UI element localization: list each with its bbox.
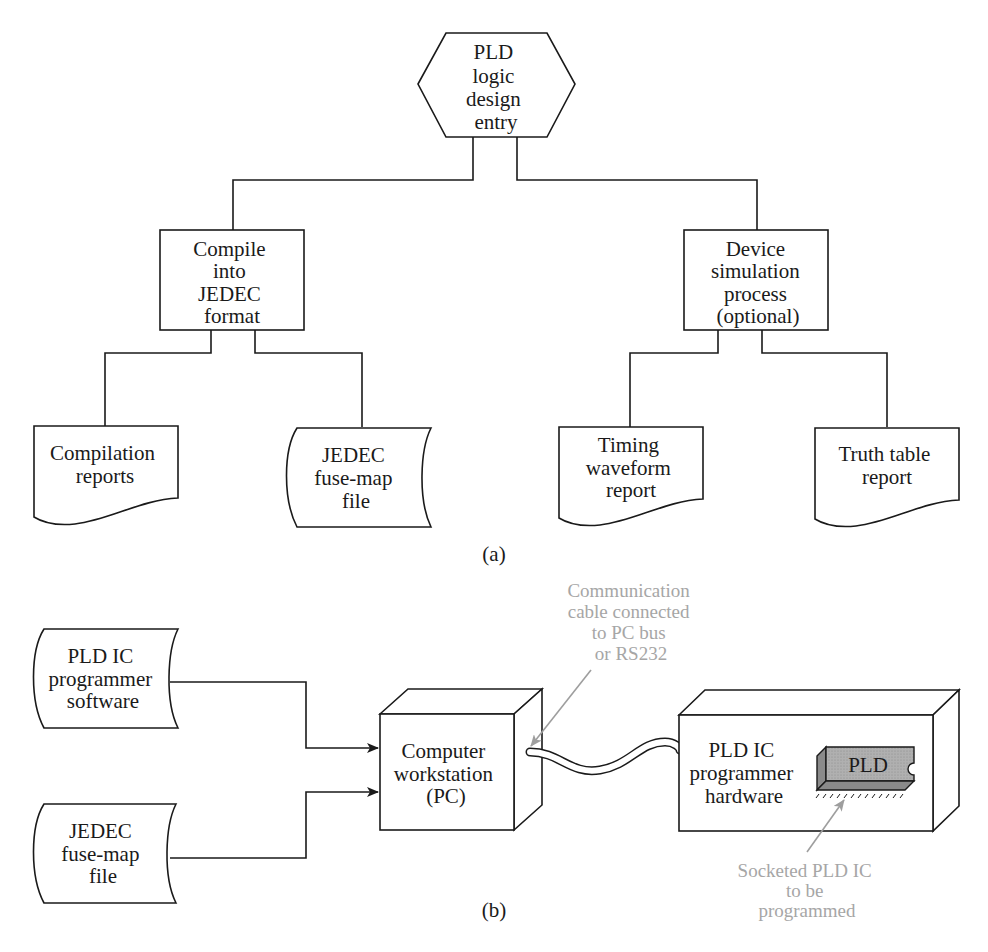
caption-b: (b) <box>482 898 507 922</box>
diagram-b: PLD IC programmer software JEDEC fuse-ma… <box>34 580 960 922</box>
diagram-a: PLD logic design entry Compile into JEDE… <box>34 33 959 566</box>
pld-programming-diagram: PLD logic design entry Compile into JEDE… <box>0 0 988 952</box>
truth-table-report-document: Truth table report <box>815 428 959 527</box>
node-text: PLD logic design entry <box>466 40 526 134</box>
annotation-text: Socketed PLD IC to be programmed <box>738 860 877 921</box>
cable-annotation: Communication cable connected to PC bus … <box>531 580 695 746</box>
pld-chip-icon: PLD <box>816 747 914 798</box>
timing-waveform-report-document: Timing waveform report <box>559 427 703 526</box>
input-arrows <box>170 682 378 858</box>
chip-label: PLD <box>848 753 888 777</box>
compilation-reports-document: Compilation reports <box>34 426 178 525</box>
jedec-fuse-map-file-storage: JEDEC fuse-map file <box>287 428 432 527</box>
jedec-file-storage-b: JEDEC fuse-map file <box>34 804 177 903</box>
communication-cable <box>530 742 680 771</box>
programmer-software-storage: PLD IC programmer software <box>34 629 179 728</box>
pld-logic-design-entry-node: PLD logic design entry <box>418 33 575 137</box>
node-text: Compile into JEDEC format <box>193 237 271 328</box>
device-simulation-node: Device simulation process (optional) <box>684 230 828 330</box>
caption-a: (a) <box>482 542 505 566</box>
computer-workstation-box: Computer workstation (PC) <box>380 689 542 830</box>
annotation-text: Communication cable connected to PC bus … <box>567 580 694 664</box>
compile-jedec-node: Compile into JEDEC format <box>160 230 304 330</box>
